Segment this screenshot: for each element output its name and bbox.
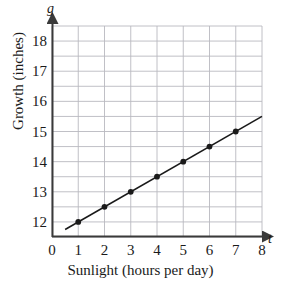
x-tick-label: 7	[227, 243, 245, 258]
y-axis-variable: g	[47, 2, 54, 16]
x-tick-label: 5	[174, 243, 192, 258]
x-tick-label: 3	[122, 243, 140, 258]
chart-figure: 12131415161718 012345678 g t Sunlight (h…	[0, 0, 281, 287]
y-tick-label: 13	[25, 185, 47, 200]
y-axis-title-wrap: Growth (inches)	[9, 1, 27, 161]
y-axis-title: Growth (inches)	[10, 32, 26, 130]
y-tick-label: 18	[25, 34, 47, 49]
x-axis-variable: t	[268, 232, 272, 246]
y-tick-label: 16	[25, 94, 47, 109]
y-tick-label: 15	[25, 125, 47, 140]
x-tick-label: 6	[201, 243, 219, 258]
x-tick-label: 2	[96, 243, 114, 258]
y-tick-label: 17	[25, 64, 47, 79]
x-tick-label: 4	[148, 243, 166, 258]
y-tick-label: 12	[25, 215, 47, 230]
x-tick-label: 1	[69, 243, 87, 258]
x-tick-label: 0	[43, 243, 61, 258]
y-tick-label: 14	[25, 155, 47, 170]
x-axis-title: Sunlight (hours per day)	[0, 262, 281, 279]
